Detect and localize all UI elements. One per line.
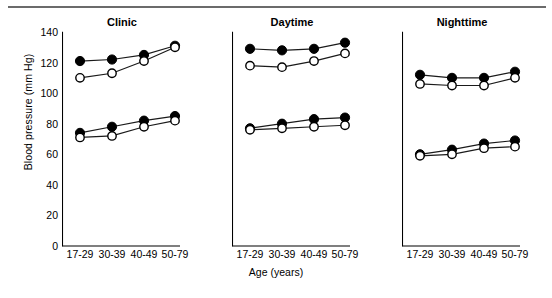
series-line xyxy=(420,72,515,78)
data-point-open xyxy=(310,123,318,131)
panel-title: Daytime xyxy=(232,16,352,28)
data-point-open xyxy=(511,142,519,150)
x-tick-label: 50-79 xyxy=(502,248,529,260)
panel-plot-area xyxy=(62,28,182,250)
panel-clinic: Clinic xyxy=(62,28,182,244)
x-tick-label: 40-49 xyxy=(471,248,498,260)
x-axis-tick-labels: 17-2930-3940-4950-79 xyxy=(232,248,352,264)
data-point-open xyxy=(341,49,349,57)
panel-title: Clinic xyxy=(62,16,182,28)
data-point-open xyxy=(511,74,519,82)
data-point-open xyxy=(108,132,116,140)
data-point-open xyxy=(416,80,424,88)
x-tick-label: 17-29 xyxy=(407,248,434,260)
data-point-open xyxy=(171,116,179,124)
y-tick-label: 80 xyxy=(32,118,58,130)
data-point-filled xyxy=(277,46,286,55)
x-tick-label: 40-49 xyxy=(301,248,328,260)
x-tick-label: 40-49 xyxy=(131,248,158,260)
data-point-open xyxy=(108,69,116,77)
series-line xyxy=(420,78,515,86)
chart-figure: Blood pressure (mm Hg) 02040608010012014… xyxy=(0,0,552,298)
panel-plot-area xyxy=(402,28,522,250)
data-point-open xyxy=(310,57,318,65)
series-line xyxy=(80,116,175,133)
y-tick-label: 0 xyxy=(32,240,58,252)
data-point-open xyxy=(480,144,488,152)
x-tick-label: 30-39 xyxy=(99,248,126,260)
data-point-filled xyxy=(107,122,116,131)
x-tick-label: 30-39 xyxy=(439,248,466,260)
y-tick-label: 20 xyxy=(32,209,58,221)
x-tick-label: 17-29 xyxy=(67,248,94,260)
panel-daytime: Daytime xyxy=(232,28,352,244)
panel-plot-area xyxy=(232,28,352,250)
data-point-open xyxy=(140,123,148,131)
data-point-open xyxy=(140,57,148,65)
y-tick-label: 40 xyxy=(32,179,58,191)
y-tick-label: 100 xyxy=(32,87,58,99)
axis-spine xyxy=(403,32,521,246)
data-point-open xyxy=(76,133,84,141)
panel-title: Nighttime xyxy=(402,16,522,28)
data-point-open xyxy=(246,126,254,134)
y-axis-tick-labels: 020406080100120140 xyxy=(32,0,58,298)
data-point-open xyxy=(278,124,286,132)
x-axis-label: Age (years) xyxy=(0,266,552,278)
panel-nighttime: Nighttime xyxy=(402,28,522,244)
series-line xyxy=(250,118,345,129)
data-point-open xyxy=(246,61,254,69)
y-tick-label: 140 xyxy=(32,26,58,38)
data-point-open xyxy=(480,81,488,89)
data-point-filled xyxy=(75,56,84,65)
y-tick-label: 120 xyxy=(32,57,58,69)
data-point-open xyxy=(278,63,286,71)
series-line xyxy=(420,147,515,156)
data-point-filled xyxy=(309,44,318,53)
x-tick-label: 50-79 xyxy=(332,248,359,260)
x-axis-tick-labels: 17-2930-3940-4950-79 xyxy=(402,248,522,264)
x-axis-tick-labels: 17-2930-3940-4950-79 xyxy=(62,248,182,264)
y-tick-label: 60 xyxy=(32,148,58,160)
data-point-open xyxy=(448,150,456,158)
data-point-filled xyxy=(245,44,254,53)
data-point-open xyxy=(341,121,349,129)
series-line xyxy=(80,121,175,138)
series-line xyxy=(80,47,175,78)
x-tick-label: 30-39 xyxy=(269,248,296,260)
data-point-open xyxy=(76,74,84,82)
x-tick-label: 50-79 xyxy=(162,248,189,260)
data-point-filled xyxy=(340,38,349,47)
data-point-open xyxy=(448,81,456,89)
data-point-open xyxy=(171,43,179,51)
series-line xyxy=(250,43,345,51)
data-point-open xyxy=(416,152,424,160)
data-point-filled xyxy=(415,70,424,79)
x-tick-label: 17-29 xyxy=(237,248,264,260)
data-point-filled xyxy=(107,55,116,64)
series-line xyxy=(250,53,345,67)
header-rule xyxy=(8,6,546,8)
